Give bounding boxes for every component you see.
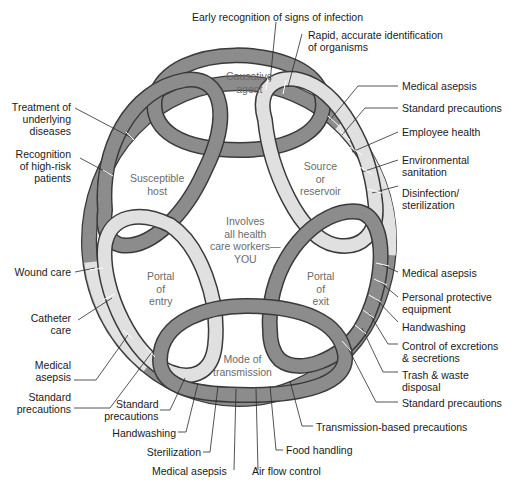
label-standard-precautions-transmission: Standardprecautions <box>104 398 159 422</box>
label-medical-asepsis-source: Medical asepsis <box>402 80 477 92</box>
label-employee-health: Employee health <box>402 126 480 138</box>
label-food-handling: Food handling <box>286 444 353 456</box>
link-label-causative-agent: Causativeagent <box>226 70 273 95</box>
label-medical-asepsis-entry: Medicalasepsis <box>0 359 71 383</box>
label-air-flow-control: Air flow control <box>252 465 321 477</box>
label-wound-care: Wound care <box>0 266 71 278</box>
link-label-portal-of-entry: Portalofentry <box>147 270 174 308</box>
label-handwashing-exit: Handwashing <box>402 321 466 333</box>
link-label-source-or-reservoir: Sourceorreservoir <box>300 160 341 198</box>
label-sterilization: Sterilization <box>135 446 201 458</box>
label-disinfection-sterilization: Disinfection/sterilization <box>402 187 459 211</box>
label-standard-precautions-source: Standard precautions <box>402 102 502 114</box>
link-label-portal-of-exit: Portalofexit <box>307 270 334 308</box>
label-standard-precautions-exit: Standard precautions <box>402 397 502 409</box>
label-personal-protective-equipment: Personal protectiveequipment <box>402 291 492 315</box>
label-handwashing-transmission: Handwashing <box>100 427 176 439</box>
label-treatment-underlying-diseases: Treatment ofunderlyingdiseases <box>0 101 71 137</box>
link-mode-of-transmission <box>160 306 345 395</box>
label-control-of-excretions: Control of excretions& secretions <box>402 340 498 364</box>
label-environmental-sanitation: Environmentalsanitation <box>402 154 469 178</box>
link-label-susceptible-host: Susceptiblehost <box>130 172 184 197</box>
center-text: Involvesall healthcare workers—YOU <box>210 215 281 265</box>
label-medical-asepsis-exit: Medical asepsis <box>402 267 477 279</box>
label-standard-precautions-entry: Standardprecautions <box>0 391 71 415</box>
label-transmission-based-precautions: Transmission-based precautions <box>316 421 467 433</box>
label-early-recognition: Early recognition of signs of infection <box>192 11 363 23</box>
link-label-mode-of-transmission: Mode oftransmission <box>213 353 272 378</box>
label-rapid-identification: Rapid, accurate identificationof organis… <box>308 29 443 53</box>
label-recognition-high-risk-patients: Recognitionof high-riskpatients <box>0 148 71 184</box>
label-catheter-care: Cathetercare <box>0 312 71 336</box>
label-medical-asepsis-transmission: Medical asepsis <box>152 465 227 477</box>
label-trash-waste-disposal: Trash & wastedisposal <box>402 369 469 393</box>
